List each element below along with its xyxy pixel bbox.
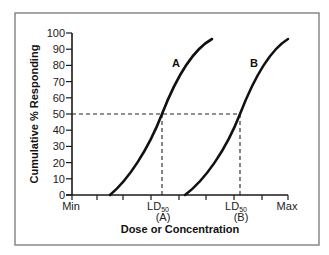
x-label-ld50-a: LD50 (A) <box>147 200 170 223</box>
curve-b-label: B <box>250 57 258 69</box>
y-tick-label: 40 <box>53 124 65 136</box>
curve-b <box>185 39 288 195</box>
y-tick-label: 20 <box>53 157 65 169</box>
y-tick-label: 100 <box>47 27 65 39</box>
y-tick-label: 60 <box>53 92 65 104</box>
svg-text:(B): (B) <box>234 211 249 223</box>
x-label-max: Max <box>277 200 298 212</box>
y-tick-label: 30 <box>53 140 65 152</box>
dose-response-chart: Cumulative % Responding 0102030405060708… <box>0 0 329 255</box>
x-label-ld50-b: LD50 (B) <box>225 200 248 223</box>
x-label-min: Min <box>62 200 80 212</box>
y-tick-label: 50 <box>53 108 65 120</box>
curve-a <box>110 39 212 195</box>
x-axis <box>66 195 288 200</box>
y-axis-title: Cumulative % Responding <box>28 45 40 184</box>
y-tick-label: 10 <box>53 173 65 185</box>
y-tick-label: 80 <box>53 59 65 71</box>
y-tick-label: 90 <box>53 43 65 55</box>
x-axis-title: Dose or Concentration <box>121 223 240 235</box>
y-tick-label: 70 <box>53 76 65 88</box>
y-axis: 0102030405060708090100 <box>47 27 72 201</box>
curve-a-label: A <box>172 57 180 69</box>
svg-text:(A): (A) <box>156 211 171 223</box>
